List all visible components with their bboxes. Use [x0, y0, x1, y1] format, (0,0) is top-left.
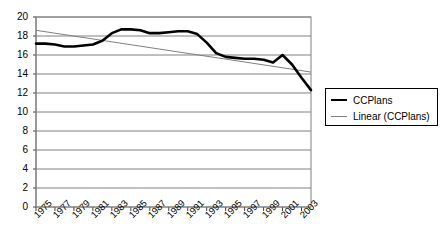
y-axis-tick-label: 10: [2, 107, 28, 117]
legend-item-ccplans: CCPlans: [331, 92, 392, 108]
line-chart: 20181614121086420 1975197719791981198319…: [0, 0, 444, 249]
y-axis-tick-label: 14: [2, 69, 28, 79]
y-axis-tick-label: 0: [2, 202, 28, 212]
legend-label-linear-ccplans: Linear (CCPlans): [353, 111, 430, 122]
y-axis-tick-label: 8: [2, 126, 28, 136]
y-axis-tick-label: 6: [2, 145, 28, 155]
legend-item-linear-ccplans: Linear (CCPlans): [331, 108, 430, 124]
y-axis-tick-label: 18: [2, 31, 28, 41]
legend-label-ccplans: CCPlans: [353, 95, 392, 106]
chart-legend: CCPlans Linear (CCPlans): [325, 88, 438, 126]
y-axis-tick-label: 20: [2, 12, 28, 22]
y-axis-tick-label: 4: [2, 164, 28, 174]
y-axis-tick-label: 12: [2, 88, 28, 98]
y-axis-tick-label: 2: [2, 183, 28, 193]
legend-swatch-linear-ccplans: [331, 116, 347, 117]
legend-swatch-ccplans: [331, 99, 347, 101]
y-axis-tick-label: 16: [2, 50, 28, 60]
